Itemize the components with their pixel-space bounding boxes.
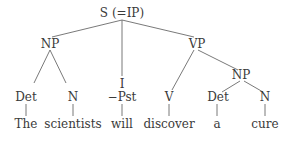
- node-n-object: N: [260, 90, 271, 104]
- word-discover: discover: [143, 117, 195, 131]
- syntax-tree-diagram: S (=IP) NP VP I NP Det N −Pst V Det N Th…: [0, 0, 296, 152]
- tree-edges: [26, 20, 265, 116]
- node-det-subject: Det: [15, 90, 37, 104]
- tree-words: The scientists will discover a cure: [15, 117, 279, 131]
- edge-vp-v: [172, 50, 194, 90]
- word-the: The: [15, 117, 38, 131]
- edge-s-np: [52, 20, 122, 37]
- word-a: a: [213, 117, 220, 131]
- node-pst: −Pst: [108, 90, 137, 104]
- node-vp: VP: [188, 37, 206, 51]
- node-det-object: Det: [207, 90, 229, 104]
- node-i: I: [120, 77, 125, 91]
- edge-vp-np: [198, 50, 238, 70]
- node-s-ip: S (=IP): [100, 6, 144, 20]
- edge-np-det: [34, 50, 50, 83]
- tree-nodes: S (=IP) NP VP I NP Det N −Pst V Det N: [15, 6, 270, 104]
- edge-np-n: [50, 50, 66, 83]
- edge-s-vp: [122, 20, 194, 37]
- word-will: will: [111, 117, 133, 131]
- node-np-object: NP: [232, 68, 251, 82]
- word-cure: cure: [251, 117, 278, 131]
- node-np-subject: NP: [41, 37, 60, 51]
- node-n-subject: N: [68, 90, 79, 104]
- word-scientists: scientists: [44, 117, 101, 131]
- node-v: V: [164, 90, 174, 104]
